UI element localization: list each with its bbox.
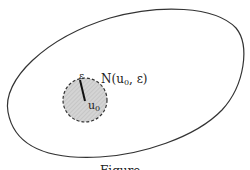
epsilon-label: ε [79, 70, 84, 81]
neighborhood-diagram: ε N(u0, ε) u0 Figure [0, 0, 250, 170]
neighborhood-label: N(u0, ε) [101, 72, 148, 87]
figure-caption: Figure [100, 164, 140, 170]
